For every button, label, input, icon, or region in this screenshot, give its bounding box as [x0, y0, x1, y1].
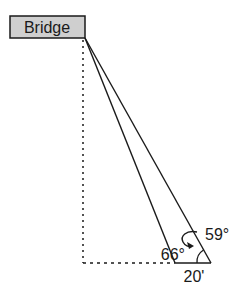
- angle-label-59: 59°: [205, 226, 229, 243]
- base-distance-label: 20': [184, 268, 205, 285]
- far-sight-line: [85, 38, 211, 263]
- bridge-label: Bridge: [24, 19, 70, 36]
- near-sight-line: [85, 38, 175, 263]
- bridge-triangle-diagram: Bridge 66° 59° 20': [0, 0, 247, 293]
- angle-label-66: 66°: [161, 246, 185, 263]
- angle-arc-59: [197, 250, 204, 263]
- bridge-box: Bridge: [10, 16, 85, 38]
